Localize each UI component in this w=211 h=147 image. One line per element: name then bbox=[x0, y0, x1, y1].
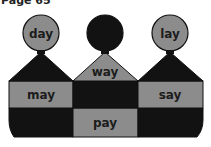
cell-r3-c2-word: pay bbox=[93, 116, 117, 130]
head-3-word: lay bbox=[160, 27, 180, 41]
head-1-word: day bbox=[29, 27, 53, 41]
cell-r2-c3-word: say bbox=[159, 88, 182, 102]
cell-r1-c1[interactable] bbox=[9, 52, 73, 81]
head-2[interactable] bbox=[87, 15, 123, 51]
cell-r3-c3[interactable] bbox=[138, 108, 203, 137]
color-by-word-puzzle: day lay way may say pay bbox=[0, 0, 211, 147]
cell-r1-c2-word: way bbox=[92, 65, 119, 79]
cell-r3-c1[interactable] bbox=[9, 108, 73, 137]
cell-r2-c1-word: may bbox=[27, 88, 55, 102]
cell-r2-c2[interactable] bbox=[73, 81, 138, 108]
cell-r1-c3[interactable] bbox=[138, 52, 203, 81]
neck-3 bbox=[166, 50, 174, 54]
neck-1 bbox=[37, 50, 45, 54]
neck-2 bbox=[101, 50, 109, 54]
